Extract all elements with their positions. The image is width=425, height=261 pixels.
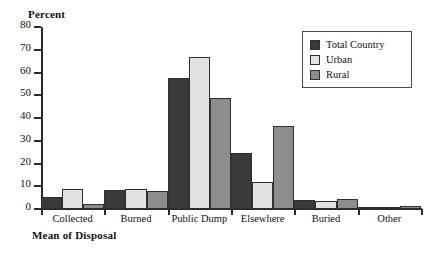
bar xyxy=(231,153,252,209)
bar xyxy=(189,57,210,209)
bar-group xyxy=(168,27,231,209)
bar-chart: Percent 80706050403020100 CollectedBurne… xyxy=(0,0,425,261)
legend-swatch-icon xyxy=(310,40,320,50)
bar-group xyxy=(104,27,167,209)
bar xyxy=(379,207,400,209)
y-axis-tick-mark xyxy=(34,140,41,142)
y-axis-tick-mark xyxy=(34,26,41,28)
legend-label: Total Country xyxy=(326,39,384,51)
bar xyxy=(125,189,146,209)
y-axis-tick-label: 30 xyxy=(20,133,31,144)
bar-group-bars xyxy=(41,27,104,209)
bar xyxy=(315,201,336,209)
legend-label: Urban xyxy=(326,54,352,66)
bar xyxy=(168,78,189,209)
legend-item[interactable]: Rural xyxy=(310,67,405,82)
legend-label: Rural xyxy=(326,69,349,81)
bar xyxy=(147,191,168,209)
y-axis-tick-label: 80 xyxy=(20,19,31,30)
y-axis-tick-mark xyxy=(34,72,41,74)
bar-group-bars xyxy=(231,27,294,209)
y-axis-tick-label: 70 xyxy=(20,42,31,53)
bar xyxy=(41,197,62,210)
y-axis-tick-mark xyxy=(34,208,41,210)
bar xyxy=(400,206,421,209)
bar xyxy=(273,126,294,209)
bar-group xyxy=(41,27,104,209)
x-axis-category-label: Buried xyxy=(294,213,357,225)
bar xyxy=(62,189,83,209)
chart-legend: Total CountryUrbanRural xyxy=(302,31,412,88)
x-axis-category-label: Public Dump xyxy=(168,213,231,225)
y-axis-tick-mark xyxy=(34,117,41,119)
bar xyxy=(337,199,358,209)
bar xyxy=(83,204,104,209)
x-axis-category-label: Elsewhere xyxy=(231,213,294,225)
bar-group-bars xyxy=(168,27,231,209)
bar xyxy=(104,190,125,209)
x-axis-category-label: Burned xyxy=(104,213,167,225)
y-axis-title: Percent xyxy=(28,8,65,20)
y-axis-tick-mark xyxy=(34,185,41,187)
bar xyxy=(210,98,231,209)
y-axis-tick-label: 0 xyxy=(26,201,32,212)
bar-group xyxy=(231,27,294,209)
y-axis-tick-label: 60 xyxy=(20,65,31,76)
y-axis-tick-mark xyxy=(34,94,41,96)
x-axis-category-label: Collected xyxy=(41,213,104,225)
bar xyxy=(294,200,315,209)
x-axis-title: Mean of Disposal xyxy=(32,229,116,241)
legend-item[interactable]: Urban xyxy=(310,52,405,67)
y-axis-tick-label: 20 xyxy=(20,156,31,167)
y-axis-tick-mark xyxy=(34,163,41,165)
legend-swatch-icon xyxy=(310,70,320,80)
y-axis-tick-label: 40 xyxy=(20,110,31,121)
y-axis-tick-label: 10 xyxy=(20,178,31,189)
bar-group-bars xyxy=(104,27,167,209)
legend-swatch-icon xyxy=(310,55,320,65)
bar xyxy=(358,207,379,209)
x-axis-tick-mark xyxy=(421,209,423,215)
y-axis-tick-mark xyxy=(34,49,41,51)
legend-item[interactable]: Total Country xyxy=(310,37,405,52)
bar xyxy=(252,182,273,209)
y-axis-tick-label: 50 xyxy=(20,87,31,98)
x-axis-category-label: Other xyxy=(358,213,421,225)
